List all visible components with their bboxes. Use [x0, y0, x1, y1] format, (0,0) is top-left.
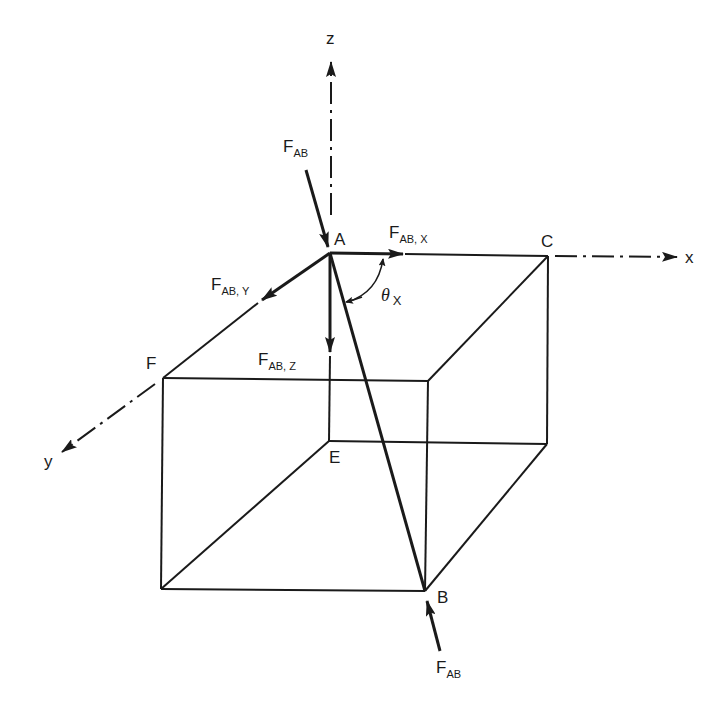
edge-C-front-top-right	[428, 256, 548, 381]
label-theta-x: θX	[381, 285, 402, 308]
force-FAB-y-arrow	[262, 253, 330, 300]
label-FAB-x-main: F	[389, 223, 399, 242]
label-FAB-bottom-sub: AB	[446, 668, 461, 680]
axis-label-z: z	[326, 29, 335, 48]
label-FAB-y-sub: AB, Y	[221, 285, 250, 297]
edge-F-front-top-right	[163, 378, 428, 381]
axis-label-x: x	[685, 248, 694, 267]
edge-front-right-down	[425, 381, 428, 591]
edge-A-E	[329, 356, 330, 441]
label-FAB-top-main: F	[283, 137, 293, 156]
edge-F-down	[161, 378, 163, 589]
point-label-E: E	[329, 448, 340, 467]
force-diagram: A C F E B z x y FAB FAB, X FAB, Y FAB, Z…	[0, 0, 721, 705]
label-FAB-y-main: F	[211, 275, 221, 294]
label-FAB-z-main: F	[258, 350, 268, 369]
label-FAB-x: FAB, X	[389, 223, 428, 245]
label-FAB-y: FAB, Y	[211, 275, 250, 297]
label-FAB-z-sub: AB, Z	[268, 360, 296, 372]
axis-label-y: y	[44, 452, 53, 471]
force-FAB-x-arrow	[330, 253, 403, 254]
point-label-A: A	[334, 230, 346, 249]
y-axis	[62, 384, 155, 452]
point-label-F: F	[146, 354, 156, 373]
point-label-B: B	[437, 588, 448, 607]
angle-theta-x-arc-start	[346, 297, 362, 302]
label-FAB-z: FAB, Z	[258, 350, 296, 372]
member-AB	[330, 253, 425, 591]
box-edges	[161, 254, 548, 591]
edge-front-bottom	[161, 589, 425, 591]
force-FAB-bottom-arrow	[427, 601, 440, 651]
edge-E-front-left	[161, 441, 329, 589]
label-FAB-top: FAB	[283, 137, 308, 159]
edge-A-F	[163, 303, 258, 378]
label-FAB-bottom-main: F	[436, 658, 446, 677]
label-FAB-bottom: FAB	[436, 658, 461, 680]
edge-back-right-B	[425, 444, 547, 591]
label-theta-sub: X	[393, 293, 402, 308]
angle-theta-x-arc	[347, 259, 383, 302]
force-FAB-top-arrow	[306, 170, 328, 247]
label-FAB-top-sub: AB	[293, 147, 308, 159]
point-label-C: C	[541, 232, 553, 251]
edge-C-down	[547, 256, 548, 444]
edge-E-back-right	[329, 441, 547, 444]
label-theta-symbol: θ	[381, 285, 390, 305]
label-FAB-x-sub: AB, X	[399, 233, 428, 245]
edge-A-C	[405, 254, 548, 256]
x-axis	[555, 256, 677, 257]
